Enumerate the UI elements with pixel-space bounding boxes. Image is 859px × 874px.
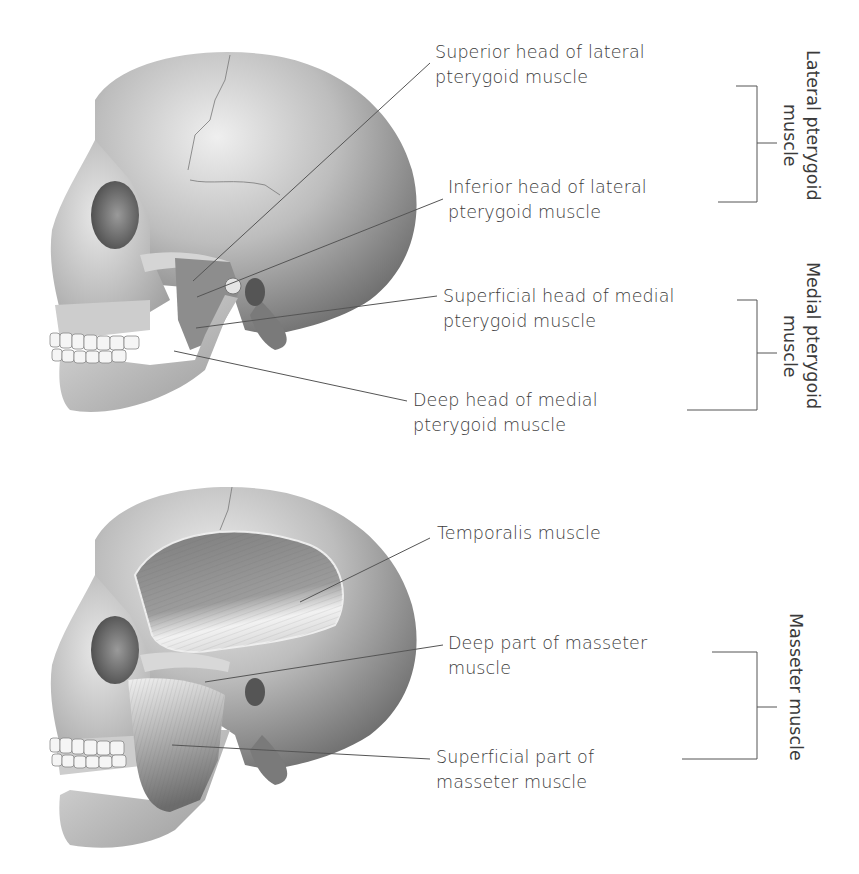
group-label-medial-pterygoid-line2: muscle xyxy=(779,315,801,378)
bracket-masseter xyxy=(682,652,757,759)
bottom-skull xyxy=(50,487,417,848)
label-inferior-lateral-pterygoid: Inferior head of lateral pterygoid muscl… xyxy=(448,175,647,225)
group-label-lateral-pterygoid-line2: muscle xyxy=(779,104,801,167)
label-deep-medial-pterygoid: Deep head of medial pterygoid muscle xyxy=(413,388,598,438)
top-teeth xyxy=(50,333,139,363)
bracket-medial-pterygoid xyxy=(687,300,757,410)
group-label-masseter: Masseter muscle xyxy=(785,613,807,761)
bottom-teeth xyxy=(50,738,126,768)
label-deep-masseter: Deep part of masseter muscle xyxy=(448,631,647,681)
temporalis-muscle xyxy=(135,532,343,652)
label-superior-lateral-pterygoid: Superior head of lateral pterygoid muscl… xyxy=(435,40,645,90)
bracket-lateral-pterygoid xyxy=(718,86,757,202)
label-superficial-medial-pterygoid: Superficial head of medial pterygoid mus… xyxy=(443,284,675,334)
leader-deep-medial-pterygoid xyxy=(174,351,407,401)
label-temporalis: Temporalis muscle xyxy=(437,521,601,546)
group-label-lateral-pterygoid: Lateral pterygoid xyxy=(802,50,824,201)
group-label-medial-pterygoid: Medial pterygoid xyxy=(802,262,824,409)
brackets xyxy=(682,86,777,759)
label-superficial-masseter: Superficial part of masseter muscle xyxy=(436,745,594,795)
